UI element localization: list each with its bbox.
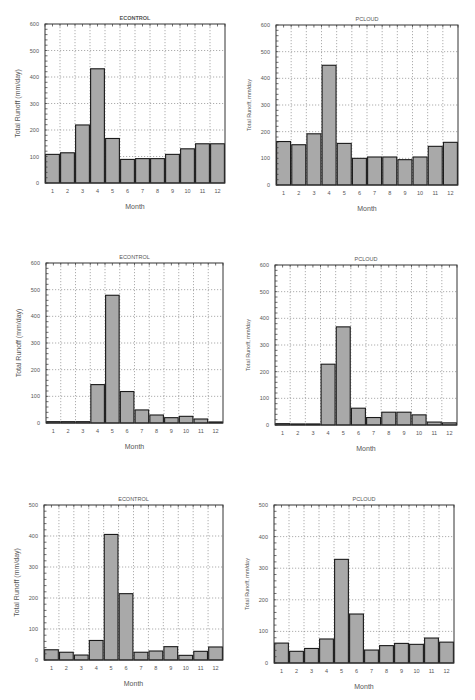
x-tick-label: 11 [429,668,435,674]
bar-month-9 [164,647,178,660]
x-tick-label: 10 [416,430,422,436]
y-tick-label: 400 [259,534,268,540]
bar-month-6 [119,594,133,660]
x-tick-label: 5 [110,665,113,671]
x-tick-label: 7 [373,190,376,196]
bar-month-12 [211,144,225,183]
bar-month-7 [365,650,379,663]
bar-month-12 [440,642,454,663]
x-tick-label: 5 [343,190,346,196]
y-tick-label: 400 [31,313,40,319]
bar-month-5 [106,138,120,183]
bar-month-4 [91,385,105,423]
bar-month-10 [413,157,427,185]
bar-month-8 [150,415,164,423]
x-tick-label: 4 [327,430,330,436]
bar-month-10 [179,416,193,423]
chart-title: PCLOUD [353,496,376,502]
x-tick-label: 9 [400,668,403,674]
bar-chart-6: 0100200300400500123456789101112PCLOUDMon… [244,496,454,690]
bar-month-5 [106,295,120,423]
bar-month-9 [398,160,412,185]
x-tick-label: 5 [111,428,114,434]
x-axis-label: Month [125,443,145,450]
y-tick-label: 0 [36,180,39,186]
x-tick-label: 12 [446,430,452,436]
bar-month-11 [194,651,208,660]
x-tick-label: 2 [67,428,70,434]
bar-month-2 [61,153,75,183]
bar-month-6 [350,614,364,663]
y-tick-label: 500 [29,502,38,508]
y-axis-label: Total Runoff, mm/day [244,558,250,610]
bar-month-4 [320,639,334,663]
bar-month-1 [45,650,59,660]
y-tick-label: 300 [261,102,270,108]
bar-month-7 [134,652,148,660]
x-axis-label: Month [357,205,377,212]
x-tick-label: 1 [50,665,53,671]
x-tick-label: 7 [139,665,142,671]
y-tick-label: 0 [267,182,270,188]
x-tick-label: 3 [311,430,314,436]
x-tick-label: 10 [417,190,423,196]
bar-month-10 [410,644,424,663]
y-tick-label: 0 [37,420,40,426]
x-tick-label: 12 [443,668,449,674]
x-tick-label: 10 [183,428,189,434]
x-tick-label: 11 [198,665,204,671]
x-tick-label: 2 [65,665,68,671]
bar-month-8 [380,646,394,663]
y-tick-label: 400 [261,75,270,81]
bar-month-10 [179,655,193,660]
x-tick-label: 8 [156,188,159,194]
x-tick-label: 9 [171,188,174,194]
y-tick-label: 200 [261,129,270,135]
bar-month-6 [351,408,365,425]
bar-month-7 [368,157,382,185]
bar-chart-2: 0100200300400500600123456789101112PCLOUD… [246,16,458,212]
bar-month-4 [322,65,336,185]
bar-month-4 [89,640,103,660]
y-tick-label: 100 [260,395,269,401]
bar-month-5 [104,534,118,660]
x-tick-label: 6 [355,668,358,674]
y-tick-label: 200 [30,127,39,133]
x-axis-label: Month [124,680,144,687]
x-tick-label: 8 [387,430,390,436]
y-tick-label: 200 [260,369,269,375]
y-tick-label: 0 [265,660,268,666]
bar-month-4 [321,364,335,425]
x-tick-label: 2 [295,668,298,674]
x-tick-label: 12 [213,428,219,434]
bar-month-8 [151,159,165,183]
x-tick-label: 11 [432,190,438,196]
chart-title: PCLOUD [356,16,379,22]
y-tick-label: 100 [30,154,39,160]
x-tick-label: 5 [111,188,114,194]
x-tick-label: 11 [198,428,204,434]
x-tick-label: 3 [312,190,315,196]
x-tick-label: 3 [81,428,84,434]
x-tick-label: 6 [125,665,128,671]
x-tick-label: 1 [280,668,283,674]
bar-month-4 [91,69,105,183]
x-tick-label: 7 [141,188,144,194]
y-axis-label: Total Runoff (mm/day) [14,69,22,138]
bar-month-9 [395,643,409,663]
bar-chart-5: 0100200300400500123456789101112ECONTROLM… [13,496,223,687]
x-tick-label: 9 [402,430,405,436]
x-tick-label: 10 [183,665,189,671]
x-tick-label: 1 [51,188,54,194]
x-tick-label: 10 [184,188,190,194]
x-tick-label: 6 [357,430,360,436]
bar-month-11 [194,419,208,423]
bar-month-10 [181,149,195,183]
bar-month-9 [397,412,411,425]
y-tick-label: 400 [29,533,38,539]
y-tick-label: 500 [261,49,270,55]
y-tick-label: 500 [31,287,40,293]
x-axis-label: Month [354,683,374,690]
y-tick-label: 100 [261,155,270,161]
bar-month-1 [277,142,291,185]
